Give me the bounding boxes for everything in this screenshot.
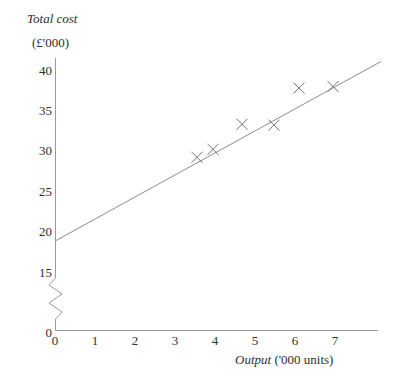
data-point-markers [192,81,339,163]
data-point-marker[interactable] [192,152,203,163]
scatter-chart: Total cost (£'000) Output ('000 units) 4… [0,0,403,387]
data-point-marker[interactable] [237,119,248,130]
plot-area [0,0,403,387]
trend-line [56,62,382,241]
data-point-marker[interactable] [294,83,305,94]
y-axis-break-zigzag [49,278,62,319]
data-point-marker[interactable] [269,120,280,131]
data-point-marker[interactable] [208,144,219,155]
data-point-marker[interactable] [328,81,339,92]
